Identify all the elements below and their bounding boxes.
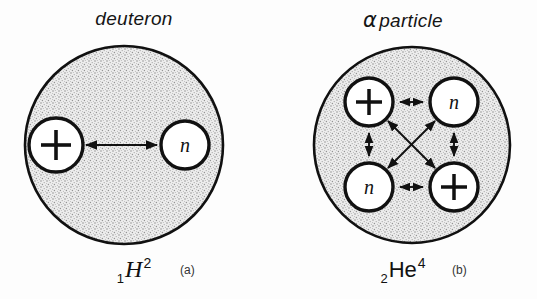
nuclide-mass-number: 2 xyxy=(142,255,151,271)
subfigure-tag-b: (b) xyxy=(452,263,467,277)
nuclide-element-symbol: He xyxy=(389,257,417,282)
nuclide-label-alpha: 2He4 xyxy=(269,256,537,285)
deuteron-nucleus-diagram: n xyxy=(22,42,226,248)
nuclide-label-deuteron: 1H2 xyxy=(0,256,268,285)
nucleon-neutron-bottom-left: n xyxy=(345,163,393,211)
alpha-nucleus-diagram: n n xyxy=(312,45,514,247)
nucleon-neutron: n xyxy=(161,121,209,169)
panel-title-deuteron: deuteron xyxy=(0,8,268,30)
panel-title-alpha: αparticle xyxy=(269,8,537,32)
nucleon-proton-bottom-right xyxy=(430,163,478,211)
neutron-label: n xyxy=(364,176,374,198)
neutron-label: n xyxy=(449,91,459,113)
subfigure-tag-a: (a) xyxy=(180,263,195,277)
alpha-symbol: α xyxy=(363,8,379,32)
nucleon-proton-top-left xyxy=(345,78,393,126)
nucleon-proton xyxy=(29,118,83,172)
panel-title-text: deuteron xyxy=(95,8,172,29)
nuclide-element-symbol: H xyxy=(125,256,142,282)
nucleon-neutron-top-right: n xyxy=(430,78,478,126)
panel-alpha-particle: αparticle xyxy=(269,0,537,299)
neutron-label: n xyxy=(180,134,190,156)
figure-canvas: deuteron xyxy=(0,0,537,299)
panel-title-text: particle xyxy=(379,10,443,31)
panel-deuteron: deuteron xyxy=(0,0,268,299)
nuclide-mass-number: 4 xyxy=(417,255,426,271)
nuclide-atomic-number: 2 xyxy=(380,271,388,286)
nuclide-atomic-number: 1 xyxy=(117,271,125,286)
